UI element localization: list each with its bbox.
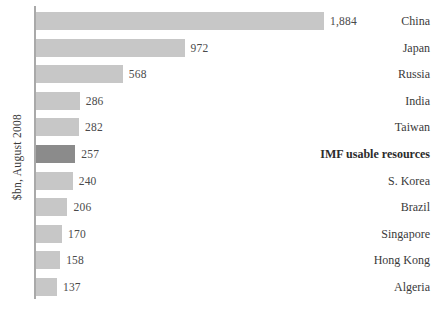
bar-row: 240 (36, 172, 324, 190)
bar (36, 225, 62, 243)
bar-row: 972 (36, 39, 324, 57)
bar-value-label: 286 (86, 95, 104, 107)
bar-row: 257 (36, 145, 324, 163)
bar-value-label: 257 (81, 148, 99, 160)
bar-value-label: 158 (66, 254, 84, 266)
bar-row: 170 (36, 225, 324, 243)
bar (36, 12, 324, 30)
category-label: Hong Kong (374, 251, 430, 269)
bar-row: 206 (36, 198, 324, 216)
bar-row: 1,884 (36, 12, 324, 30)
category-label: China (401, 12, 430, 30)
bar-row: 282 (36, 118, 324, 136)
bar-value-label: 206 (73, 201, 91, 213)
bar-row: 286 (36, 92, 324, 110)
category-label: Russia (398, 65, 430, 83)
bar-row: 158 (36, 251, 324, 269)
category-label: Brazil (401, 198, 430, 216)
bar (36, 92, 80, 110)
bar-row: 568 (36, 65, 324, 83)
bar (36, 39, 185, 57)
category-label: Singapore (381, 225, 430, 243)
y-axis-caption: $bn, August 2008 (0, 0, 34, 313)
bar-value-label: 170 (68, 228, 86, 240)
bar-value-label: 137 (63, 281, 81, 293)
bar (36, 198, 67, 216)
bar-value-label: 568 (129, 68, 147, 80)
bar-value-label: 240 (79, 175, 97, 187)
category-label: Japan (403, 39, 430, 57)
category-label: India (405, 92, 430, 110)
category-label: Algeria (394, 278, 430, 296)
plot-area: 1,884972568286282257240206170158137 (34, 6, 324, 303)
category-label: S. Korea (388, 172, 430, 190)
bar (36, 278, 57, 296)
category-label: Taiwan (395, 118, 430, 136)
y-axis-label: $bn, August 2008 (11, 113, 23, 199)
bar-value-label: 972 (191, 42, 209, 54)
category-axis: ChinaJapanRussiaIndiaTaiwanIMF usable re… (324, 6, 432, 303)
bar-value-label: 282 (85, 121, 103, 133)
bar (36, 172, 73, 190)
category-label: IMF usable resources (320, 145, 430, 163)
bar (36, 251, 60, 269)
bar-row: 137 (36, 278, 324, 296)
bar-chart: $bn, August 2008 1,884972568286282257240… (0, 0, 434, 313)
bar (36, 145, 75, 163)
bar (36, 65, 123, 83)
bar (36, 118, 79, 136)
